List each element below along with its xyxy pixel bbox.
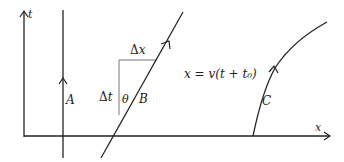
x-axis: x xyxy=(24,121,330,140)
x-axis-label: x xyxy=(315,121,322,134)
worldline-c-label: C xyxy=(262,94,271,108)
worldline-b-label: B xyxy=(138,92,148,106)
delta-x-label: Δx xyxy=(130,43,146,57)
worldline-a-label: A xyxy=(65,93,75,107)
theta-label: θ xyxy=(122,93,129,106)
worldline-c: C xyxy=(253,22,327,136)
velocity-triangle: Δx Δt θ xyxy=(99,43,157,115)
t-axis-label: t xyxy=(28,8,33,21)
spacetime-diagram: t x A Δx Δt θ B x = v(t + t₀) C xyxy=(0,0,344,162)
delta-t-label: Δt xyxy=(99,90,113,104)
t-axis: t xyxy=(20,8,33,137)
worldline-b-equation: x = v(t + t₀) xyxy=(184,67,257,81)
